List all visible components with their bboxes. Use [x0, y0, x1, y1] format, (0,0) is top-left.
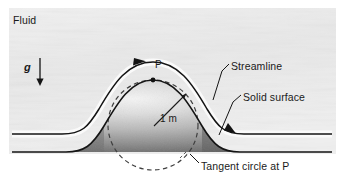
radius-label: 1 m: [160, 114, 177, 124]
streamline-label: Streamline: [231, 61, 282, 72]
gravity-label: g: [24, 62, 31, 73]
point-p-label: P: [155, 60, 162, 70]
tangent-circle-label: Tangent circle at P: [201, 161, 289, 172]
figure-flow-over-curved-surface: Fluid g P 1 m Streamline Solid surface T…: [0, 0, 343, 189]
fluid-label: Fluid: [13, 15, 36, 26]
point-p-marker: [151, 78, 156, 83]
solid-surface-label: Solid surface: [243, 92, 305, 103]
